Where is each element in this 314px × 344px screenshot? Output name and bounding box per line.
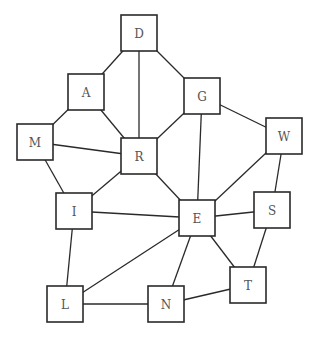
node-label: R bbox=[134, 150, 144, 164]
node-s: S bbox=[254, 192, 290, 228]
node-e: E bbox=[179, 200, 215, 236]
node-label: A bbox=[81, 86, 91, 100]
node-label: M bbox=[29, 136, 41, 150]
graph-diagram: DAMRGWIESLNT bbox=[0, 0, 314, 344]
node-a: A bbox=[68, 74, 104, 110]
node-l: L bbox=[47, 286, 83, 322]
node-label: S bbox=[268, 204, 276, 218]
node-label: G bbox=[197, 90, 207, 104]
node-label: W bbox=[278, 130, 291, 144]
node-label: I bbox=[72, 205, 77, 219]
node-label: N bbox=[161, 298, 172, 312]
node-d: D bbox=[121, 15, 157, 51]
node-m: M bbox=[17, 124, 53, 160]
node-w: W bbox=[266, 118, 302, 154]
node-g: G bbox=[184, 78, 220, 114]
node-t: T bbox=[230, 267, 266, 303]
node-label: D bbox=[134, 27, 144, 41]
node-r: R bbox=[121, 138, 157, 174]
nodes-layer: DAMRGWIESLNT bbox=[17, 15, 302, 322]
node-i: I bbox=[56, 193, 92, 229]
node-n: N bbox=[148, 286, 184, 322]
node-label: E bbox=[193, 212, 202, 226]
node-label: T bbox=[244, 279, 252, 293]
node-label: L bbox=[61, 298, 69, 312]
